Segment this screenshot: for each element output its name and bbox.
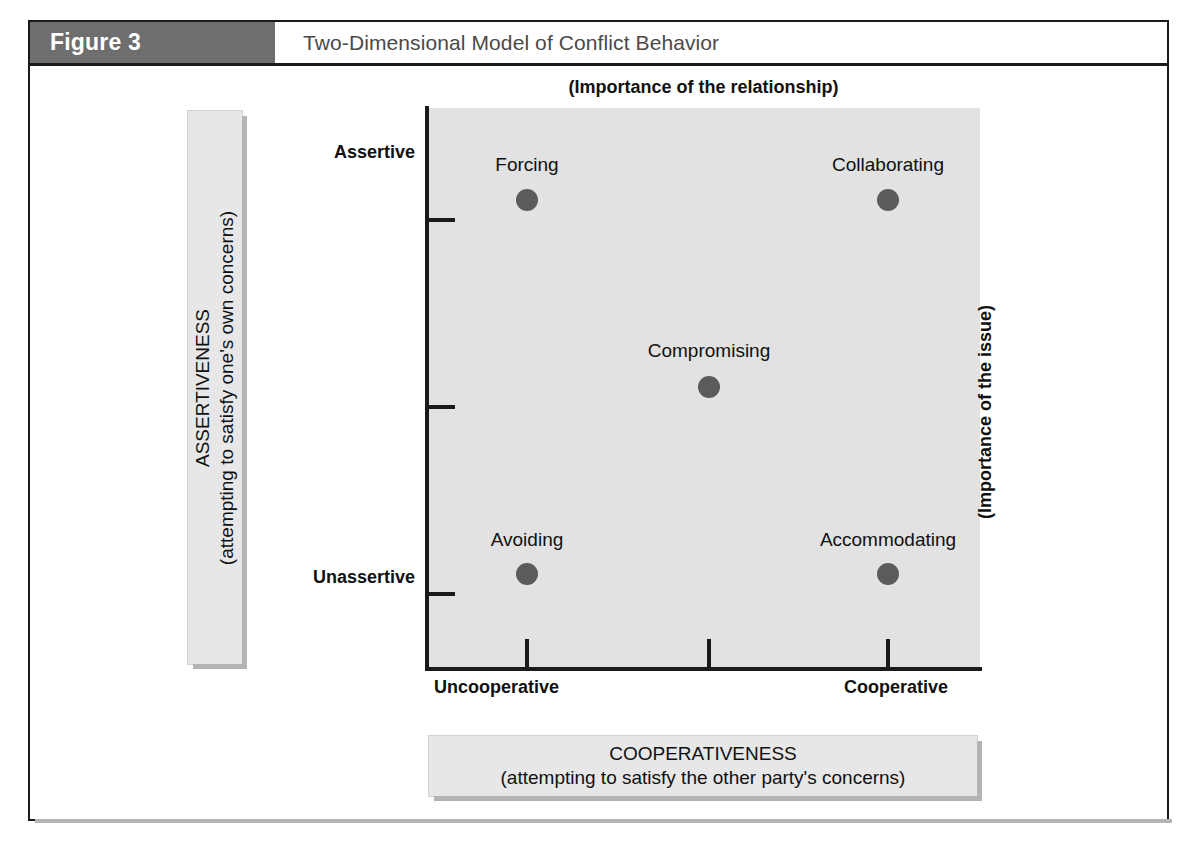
x-axis-caption-title: COOPERATIVENESS [609, 742, 797, 766]
data-point-collaborating [877, 189, 899, 211]
figure-header: Figure 3 Two-Dimensional Model of Confli… [30, 22, 1167, 66]
data-point-compromising [698, 376, 720, 398]
x-axis-label-uncooperative: Uncooperative [434, 677, 559, 698]
x-axis-caption-subtitle: (attempting to satisfy the other party's… [501, 766, 906, 790]
data-point-accommodating [877, 563, 899, 585]
data-point-label-collaborating: Collaborating [832, 154, 944, 176]
data-point-label-accommodating: Accommodating [820, 529, 956, 551]
y-axis-tick-assertive [427, 218, 455, 222]
figure-frame: Figure 3 Two-Dimensional Model of Confli… [28, 20, 1169, 821]
y-axis-tick-middle [427, 405, 455, 409]
y-axis-caption-subtitle: (attempting to satisfy one's own concern… [215, 110, 239, 665]
y-axis-tick-unassertive [427, 592, 455, 596]
x-axis-line [425, 667, 982, 671]
x-axis-tick-middle [707, 639, 711, 667]
x-axis-tick-uncooperative [525, 639, 529, 667]
data-point-label-avoiding: Avoiding [491, 529, 564, 551]
y-axis-label-unassertive: Unassertive [313, 567, 415, 588]
right-axis-caption: (Importance of the issue) [970, 247, 1000, 577]
y-axis-line [425, 106, 429, 671]
figure-number-label: Figure 3 [50, 29, 141, 56]
y-axis-caption-title: ASSERTIVENESS [191, 110, 215, 665]
right-axis-caption-text: (Importance of the issue) [975, 247, 996, 577]
figure-title-box: Two-Dimensional Model of Conflict Behavi… [275, 22, 1167, 63]
data-point-avoiding [516, 563, 538, 585]
y-axis-label-assertive: Assertive [334, 142, 415, 163]
y-axis-caption-panel: ASSERTIVENESS (attempting to satisfy one… [187, 110, 243, 665]
y-axis-caption-text: ASSERTIVENESS (attempting to satisfy one… [191, 110, 239, 665]
data-point-label-forcing: Forcing [495, 154, 558, 176]
x-axis-tick-cooperative [886, 639, 890, 667]
data-point-forcing [516, 189, 538, 211]
x-axis-caption-panel: COOPERATIVENESS (attempting to satisfy t… [428, 735, 978, 797]
figure-page: Figure 3 Two-Dimensional Model of Confli… [0, 0, 1197, 845]
figure-number-box: Figure 3 [30, 22, 275, 63]
x-axis-label-cooperative: Cooperative [844, 677, 948, 698]
data-point-label-compromising: Compromising [648, 340, 770, 362]
top-axis-caption: (Importance of the relationship) [427, 77, 980, 98]
figure-title: Two-Dimensional Model of Conflict Behavi… [303, 31, 719, 55]
